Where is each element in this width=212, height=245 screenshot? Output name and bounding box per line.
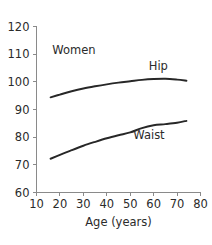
x-tick-label: 20 — [53, 197, 68, 211]
y-tick-label: 120 — [8, 20, 30, 34]
annotation-label-women: Women — [52, 43, 95, 57]
x-axis-tick-labels: 1020304050607080 — [29, 197, 208, 211]
x-tick-label: 50 — [123, 197, 138, 211]
x-tick-label: 10 — [29, 197, 44, 211]
x-tick-label: 30 — [76, 197, 91, 211]
x-tick-label: 80 — [193, 197, 208, 211]
x-tick-label: 40 — [99, 197, 114, 211]
x-axis-title: Age (years) — [85, 215, 152, 229]
y-tick-label: 110 — [8, 47, 30, 61]
chart-container: 60708090100110120 1020304050607080 Women… — [0, 0, 212, 245]
annotation-label-hip: Hip — [149, 59, 168, 73]
line-chart: 60708090100110120 1020304050607080 Women… — [0, 0, 212, 245]
y-tick-label: 70 — [15, 158, 30, 172]
y-tick-label: 80 — [15, 130, 30, 144]
annotation-label-waist: Waist — [133, 128, 165, 142]
y-tick-label: 100 — [8, 75, 30, 89]
y-tick-label: 60 — [15, 186, 30, 200]
x-tick-label: 70 — [170, 197, 185, 211]
series-line-hip — [51, 79, 187, 98]
data-series — [51, 79, 187, 159]
y-axis-tick-labels: 60708090100110120 — [8, 20, 30, 200]
series-line-waist — [51, 121, 187, 159]
x-tick-label: 60 — [146, 197, 161, 211]
y-tick-label: 90 — [15, 103, 30, 117]
